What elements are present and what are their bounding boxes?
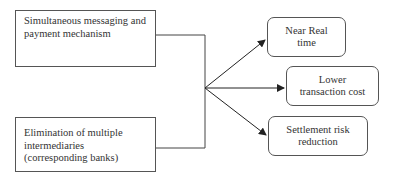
box-text-line: (corresponding banks)	[24, 152, 147, 165]
box-text-line: reduction	[286, 136, 349, 149]
box-text-line: Lower	[300, 74, 366, 87]
box-text-line: Simultaneous messaging and	[24, 15, 147, 28]
output-box-settlement-risk: Settlement risk reduction	[268, 116, 368, 156]
box-text-line: Settlement risk	[286, 124, 349, 137]
box-text-line: intermediaries	[24, 140, 147, 153]
box-text-line: transaction cost	[300, 86, 366, 99]
arrow-settlement-risk	[205, 88, 266, 135]
arrow-near-real-time	[205, 40, 265, 88]
input-box-elimination: Elimination of multiple intermediaries (…	[15, 117, 156, 172]
box-text-line: Elimination of multiple	[24, 127, 147, 140]
box-text-line: time	[285, 37, 327, 50]
box-text-line: payment mechanism	[24, 28, 147, 41]
diagram-canvas: Simultaneous messaging and payment mecha…	[0, 0, 396, 178]
output-box-lower-cost: Lower transaction cost	[286, 66, 379, 106]
box-text-line: Near Real	[285, 25, 327, 38]
input-box-simultaneous: Simultaneous messaging and payment mecha…	[15, 10, 156, 67]
output-box-near-real-time: Near Real time	[267, 17, 346, 57]
